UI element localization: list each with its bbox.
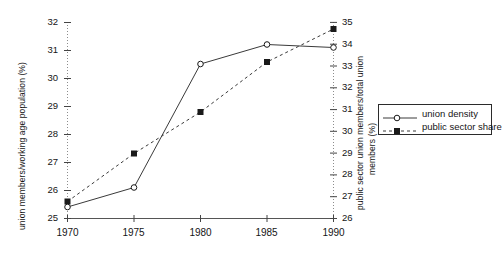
x-tick-label-1980: 1980 — [176, 227, 225, 238]
left-axis-ticks — [64, 23, 71, 219]
right-tick-label-30: 30 — [342, 125, 366, 136]
right-tick-label-32: 32 — [342, 81, 366, 92]
x-tick-label-1990: 1990 — [309, 227, 358, 238]
left-tick-label-26: 26 — [32, 184, 58, 195]
right-tick-label-29: 29 — [342, 147, 366, 158]
right-tick-label-33: 33 — [342, 60, 366, 71]
legend-label-union-density: union density — [422, 108, 478, 119]
right-tick-label-31: 31 — [342, 103, 366, 114]
left-tick-label-25: 25 — [32, 212, 58, 223]
right-tick-label-28: 28 — [342, 168, 366, 179]
legend-swatch-public-sector-share — [383, 122, 417, 132]
left-tick-label-29: 29 — [32, 100, 58, 111]
series-markers-public-sector-share — [65, 26, 337, 205]
series-line-union-density — [68, 45, 334, 208]
left-tick-label-30: 30 — [32, 72, 58, 83]
legend-item-public-sector-share: public sector share — [379, 120, 491, 133]
right-tick-label-35: 35 — [342, 16, 366, 27]
left-tick-label-27: 27 — [32, 156, 58, 167]
series-line-public-sector-share — [68, 29, 334, 202]
right-tick-label-26: 26 — [342, 212, 366, 223]
legend-item-union-density: union density — [379, 107, 491, 120]
right-tick-label-27: 27 — [342, 190, 366, 201]
right-tick-label-34: 34 — [342, 38, 366, 49]
chart-legend: union density public sector share — [378, 104, 492, 135]
left-tick-label-32: 32 — [32, 16, 58, 27]
x-tick-label-1975: 1975 — [109, 227, 158, 238]
legend-swatch-union-density — [383, 109, 417, 119]
x-tick-label-1970: 1970 — [43, 227, 92, 238]
series-markers-union-density — [65, 42, 337, 210]
x-tick-label-1985: 1985 — [242, 227, 291, 238]
left-tick-label-31: 31 — [32, 44, 58, 55]
right-axis-ticks — [330, 22, 337, 218]
left-tick-label-28: 28 — [32, 128, 58, 139]
legend-label-public-sector-share: public sector share — [422, 121, 502, 132]
